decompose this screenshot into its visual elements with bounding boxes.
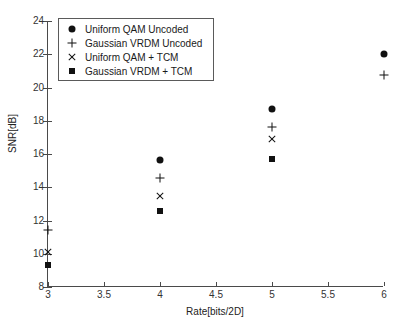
data-point-marker-icon [381, 51, 388, 58]
y-tick-mark-inner [48, 287, 52, 288]
x-tick-mark [48, 282, 49, 286]
legend-item: Uniform QAM Uncoded [59, 22, 213, 36]
x-tick-mark [272, 282, 273, 286]
legend-item-label: Gaussian VRDM + TCM [85, 66, 192, 77]
y-tick-mark-inner [48, 221, 52, 222]
x-tick-label: 3.5 [97, 289, 111, 300]
x-tick-label: 5 [269, 289, 275, 300]
data-point-marker-icon [380, 71, 389, 80]
data-point-marker-icon [44, 248, 53, 257]
y-tick-label: 24 [33, 16, 44, 26]
legend-item: Gaussian VRDM Uncoded [59, 36, 213, 50]
y-axis-label: SNR[dB] [7, 74, 18, 194]
data-point-marker-icon [269, 106, 276, 113]
figure: 81012141618202224 33.544.555.56 SNR[dB] … [0, 0, 396, 328]
legend-item-label: Uniform QAM Uncoded [85, 24, 188, 35]
circle-marker-icon [69, 26, 76, 33]
x-tick-label: 5.5 [321, 289, 335, 300]
x-tick-mark [328, 282, 329, 286]
legend-symbol [59, 22, 85, 36]
y-tick-label: 18 [33, 116, 44, 126]
legend-symbol [59, 50, 85, 64]
y-tick-label: 22 [33, 49, 44, 59]
legend-symbol [59, 64, 85, 78]
data-point-marker-icon [157, 156, 164, 163]
data-point-marker-icon [268, 122, 277, 131]
legend-item-label: Uniform QAM + TCM [85, 52, 178, 63]
data-point-marker-icon [45, 262, 51, 268]
x-tick-label: 6 [381, 289, 387, 300]
x-axis-label: Rate[bits/2D] [47, 306, 383, 317]
y-tick-mark-inner [48, 88, 52, 89]
y-tick-label: 12 [33, 216, 44, 226]
data-point-marker-icon [268, 135, 277, 144]
data-point-marker-icon [44, 226, 53, 235]
y-tick-mark-inner [48, 121, 52, 122]
y-tick-label: 14 [33, 182, 44, 192]
legend: Uniform QAM UncodedGaussian VRDM Uncoded… [58, 18, 214, 81]
y-tick-label: 8 [38, 282, 44, 292]
y-tick-label: 10 [33, 249, 44, 259]
legend-item: Gaussian VRDM + TCM [59, 64, 213, 78]
plus-marker-icon [68, 39, 77, 48]
x-tick-mark [216, 282, 217, 286]
cross-marker-icon [68, 53, 77, 62]
x-tick-label: 4.5 [209, 289, 223, 300]
x-tick-mark [160, 282, 161, 286]
x-tick-mark [384, 282, 385, 286]
y-tick-label: 20 [33, 83, 44, 93]
data-point-marker-icon [156, 191, 165, 200]
legend-item-label: Gaussian VRDM Uncoded [85, 38, 202, 49]
legend-symbol [59, 36, 85, 50]
y-tick-mark-inner [48, 187, 52, 188]
legend-item: Uniform QAM + TCM [59, 50, 213, 64]
y-tick-mark-inner [48, 154, 52, 155]
x-tick-label: 4 [157, 289, 163, 300]
y-tick-label: 16 [33, 149, 44, 159]
x-tick-label: 3 [45, 289, 51, 300]
square-marker-icon [69, 68, 75, 74]
data-point-marker-icon [156, 174, 165, 183]
data-point-marker-icon [157, 208, 163, 214]
data-point-marker-icon [269, 156, 275, 162]
y-tick-mark-inner [48, 54, 52, 55]
x-tick-mark [104, 282, 105, 286]
y-tick-mark-inner [48, 21, 52, 22]
